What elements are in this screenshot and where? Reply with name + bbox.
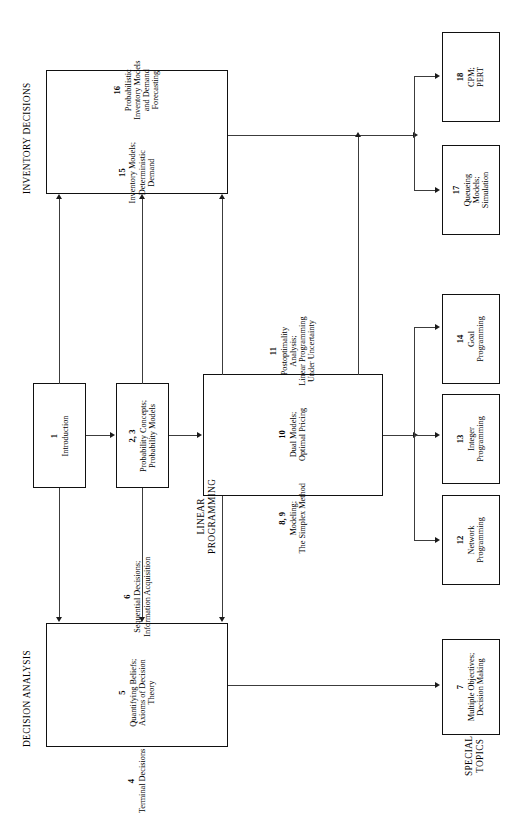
linear-programming-box[interactable]: 8, 9 Modeling; The Simplex Method 10 Dua… xyxy=(203,374,383,496)
chapter-entry-6: 6 Sequential Decisions; Information Acqu… xyxy=(122,548,151,646)
arrowhead-23-to-decision xyxy=(139,617,145,622)
branch-to-18 xyxy=(414,76,436,77)
group-caption-linear-programming: LINEAR PROGRAMMING xyxy=(170,505,230,528)
chapter-entry-2-3: 2, 3 Probability Concepts; Probability M… xyxy=(128,390,157,480)
arrowhead-1-to-decision xyxy=(56,617,62,622)
branch-to-12 xyxy=(414,540,436,541)
arrowhead-to-18 xyxy=(435,73,440,79)
group-caption-special-topics: SPECIAL TOPICS xyxy=(455,745,495,767)
arrowhead-23-to-lp xyxy=(197,432,202,438)
inventory-decisions-box[interactable]: 15 Inventory Models; Deterministic Deman… xyxy=(46,70,228,194)
chapter-box-7[interactable]: 7 Multiple Objectives; Decision Making xyxy=(442,639,500,735)
chapter-entry-4: 4 Terminal Decisions xyxy=(127,740,147,823)
chapter-box-17[interactable]: 17 Queueing Models; Simulation xyxy=(442,145,500,235)
connector-lp-to-queueing-riser xyxy=(358,136,359,375)
connector-lp-to-decision xyxy=(222,496,223,618)
decision-entries: 4 Terminal Decisions 5 Quantifying Belie… xyxy=(118,548,156,823)
chapter-entry-1: 1 Introduction xyxy=(49,406,69,465)
chapter-entry-14: 14 Goal Programming xyxy=(456,307,485,371)
arrowhead-lp-riser xyxy=(355,132,361,137)
connector-1-to-inventory xyxy=(59,199,60,384)
connector-23-to-decision xyxy=(142,488,143,618)
chapter-entry-10: 10 Dual Models; Optimal Pricing xyxy=(278,399,307,470)
branch-to-17 xyxy=(414,190,436,191)
connector-23-to-lp xyxy=(169,435,198,436)
distributor-12-13-14 xyxy=(414,327,415,540)
arrowhead-to-12 xyxy=(435,537,440,543)
diagram-canvas: INVENTORY DECISIONS 15 Inventory Models;… xyxy=(0,0,522,827)
chapter-entry-15: 15 Inventory Models; Deterministic Deman… xyxy=(118,133,156,213)
chapter-entry-7: 7 Multiple Objectives; Decision Making xyxy=(456,644,485,730)
arrowhead-23-to-inventory xyxy=(139,194,145,199)
chapter-box-1[interactable]: 1 Introduction xyxy=(33,383,86,488)
connector-1-to-23 xyxy=(86,435,111,436)
chapter-box-18[interactable]: 18 CPM; PERT xyxy=(442,32,500,122)
chapter-entry-11: 11 Postoptimality Analysis; Linear Progr… xyxy=(269,307,317,394)
connector-lp-to-inventory xyxy=(222,199,223,375)
linear-entries: 8, 9 Modeling; The Simplex Method 10 Dua… xyxy=(269,307,317,562)
arrowhead-1-to-23 xyxy=(110,432,115,438)
chapter-entry-18: 18 CPM; PERT xyxy=(456,58,485,96)
chapter-entry-13: 13 Integer Programming xyxy=(456,407,485,471)
chapter-entry-16: 16 Probabilistic Inventory Models and De… xyxy=(113,52,161,129)
inventory-entries: 15 Inventory Models; Deterministic Deman… xyxy=(113,52,161,213)
connector-inventory-to-junction xyxy=(228,135,414,136)
arrowhead-lp-to-inventory xyxy=(219,194,225,199)
distributor-17-18 xyxy=(414,76,415,190)
chapter-box-14[interactable]: 14 Goal Programming xyxy=(442,294,500,384)
connector-23-to-inventory xyxy=(142,199,143,384)
chapter-box-2-3[interactable]: 2, 3 Probability Concepts; Probability M… xyxy=(116,383,169,488)
chapter-box-12[interactable]: 12 Network Programming xyxy=(442,495,500,585)
chapter-entry-8-9: 8, 9 Modeling; The Simplex Method xyxy=(278,474,307,563)
arrowhead-1-to-inventory xyxy=(56,194,62,199)
branch-to-14 xyxy=(414,327,436,328)
decision-analysis-box[interactable]: 4 Terminal Decisions 5 Quantifying Belie… xyxy=(46,623,228,747)
connector-decision-to-7 xyxy=(228,685,436,686)
connector-lp-to-junction-lower xyxy=(383,435,414,436)
chapter-entry-5: 5 Quantifying Beliefs; Axioms of Decisio… xyxy=(118,650,156,736)
branch-to-13 xyxy=(414,435,436,436)
arrowhead-to-17 xyxy=(435,187,440,193)
arrowhead-decision-to-7 xyxy=(435,682,440,688)
connector-1-to-decision xyxy=(59,488,60,618)
arrowhead-to-13 xyxy=(435,432,440,438)
chapter-entry-12: 12 Network Programming xyxy=(456,508,485,572)
arrowhead-lp-to-decision xyxy=(219,617,225,622)
chapter-box-13[interactable]: 13 Integer Programming xyxy=(442,394,500,484)
arrowhead-to-14 xyxy=(435,324,440,330)
chapter-entry-17: 17 Queueing Models; Simulation xyxy=(452,163,490,217)
